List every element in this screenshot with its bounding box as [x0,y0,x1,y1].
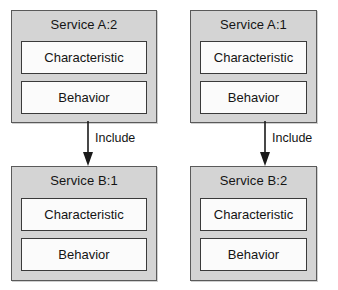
compartment-behavior: Behavior [200,238,307,271]
service-title: Service B:1 [12,174,156,187]
compartment-characteristic: Characteristic [21,41,147,74]
service-box-service-a2[interactable]: Service A:2 Characteristic Behavior [11,10,157,123]
service-include-diagram: Service A:2 Characteristic Behavior Serv… [0,0,338,290]
service-title: Service A:2 [12,18,156,31]
service-box-service-b1[interactable]: Service B:1 Characteristic Behavior [11,166,157,281]
service-title: Service B:2 [191,174,316,187]
service-box-service-b2[interactable]: Service B:2 Characteristic Behavior [190,166,317,281]
service-box-service-a1[interactable]: Service A:1 Characteristic Behavior [190,10,317,123]
compartment-behavior: Behavior [21,238,147,271]
include-label: Include [95,132,135,145]
compartment-characteristic: Characteristic [200,41,307,74]
compartment-behavior: Behavior [200,81,307,114]
include-label: Include [272,132,312,145]
compartment-characteristic: Characteristic [21,198,147,231]
compartment-characteristic: Characteristic [200,198,307,231]
compartment-behavior: Behavior [21,81,147,114]
service-title: Service A:1 [191,18,316,31]
